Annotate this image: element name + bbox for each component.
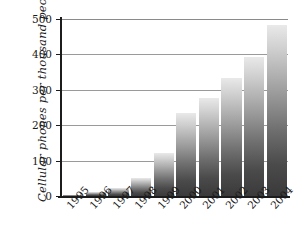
- y-axis-title: Cellular phones per thousand people: [35, 12, 49, 202]
- bar-chart: Cellular phones per thousand people 500 …: [0, 0, 296, 241]
- bar-2004: [267, 25, 287, 196]
- y-tick-label-500: 500: [22, 13, 52, 25]
- y-tick-label-100: 100: [22, 155, 52, 167]
- y-tick-label-300: 300: [22, 84, 52, 96]
- y-tick-mark-0: [56, 196, 62, 197]
- bar-2001: [199, 98, 219, 196]
- y-tick-label-200: 200: [22, 119, 52, 131]
- y-tick-label-0: 0: [22, 190, 52, 202]
- bar-2002: [221, 78, 241, 196]
- bars-group: [62, 19, 288, 196]
- x-axis-labels-group: 1995199619971998199920002001200220032004: [62, 199, 288, 241]
- y-tick-label-400: 400: [22, 48, 52, 60]
- bar-2003: [244, 57, 264, 196]
